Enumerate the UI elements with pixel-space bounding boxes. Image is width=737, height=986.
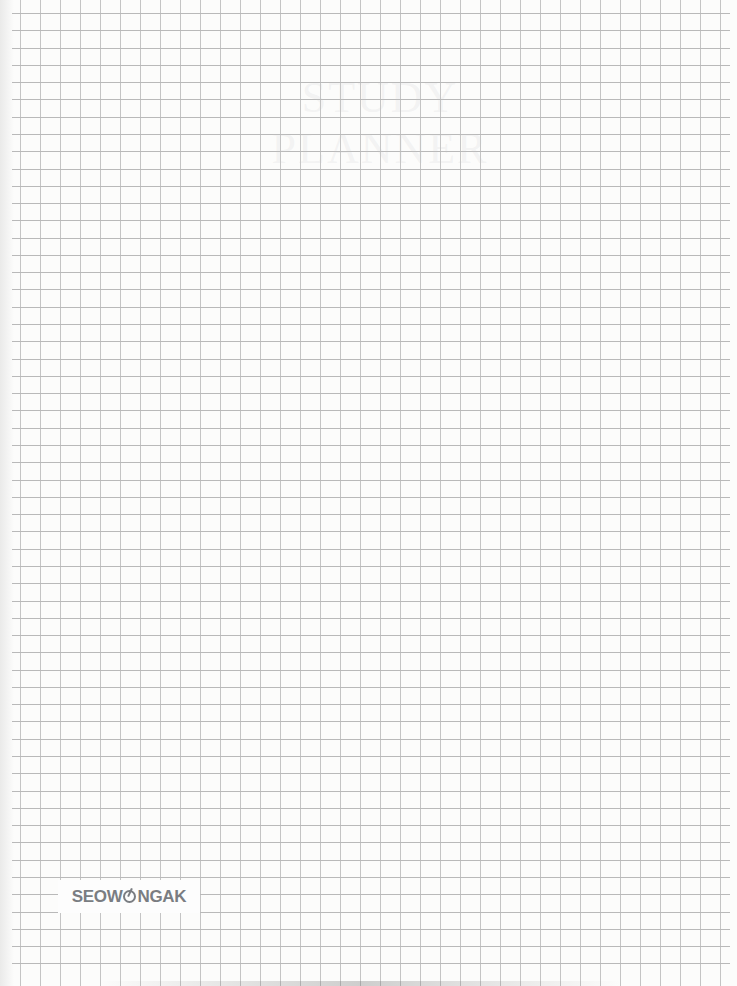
brand-logo: SEOW NGAK <box>58 880 200 913</box>
notebook-page: STUDY PLANNER SEOW NGAK <box>0 0 737 986</box>
logo-text: SEOW NGAK <box>72 887 187 907</box>
logo-prefix: SEOW <box>72 887 123 907</box>
logo-suffix: NGAK <box>137 887 186 907</box>
o-mark-icon <box>123 890 136 903</box>
page-title-watermark: STUDY PLANNER <box>190 72 570 174</box>
page-edge-shadow <box>100 981 620 986</box>
